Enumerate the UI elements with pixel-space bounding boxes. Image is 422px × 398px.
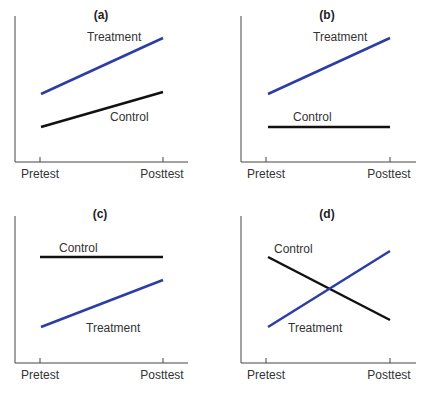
panel-a: (a) Pretest Posttest Treatment Control bbox=[15, 8, 188, 181]
panel-d-label-posttest: Posttest bbox=[367, 368, 411, 382]
panel-b-treatment-line bbox=[268, 38, 390, 94]
panel-b-treatment-label: Treatment bbox=[313, 30, 368, 44]
panel-d-treatment-line bbox=[268, 251, 390, 327]
panel-c-title: (c) bbox=[93, 207, 108, 221]
panel-b-label-pretest: Pretest bbox=[247, 167, 286, 181]
panel-c-axes bbox=[15, 216, 188, 363]
panel-b: (b) Pretest Posttest Treatment Control bbox=[241, 8, 416, 181]
panel-b-title: (b) bbox=[319, 8, 334, 22]
panel-a-treatment-label: Treatment bbox=[87, 30, 142, 44]
panel-d-control-label: Control bbox=[274, 242, 313, 256]
panel-d-treatment-label: Treatment bbox=[288, 321, 343, 335]
panel-c-label-pretest: Pretest bbox=[21, 368, 60, 382]
panel-c-treatment-label: Treatment bbox=[86, 321, 141, 335]
panel-c-label-posttest: Posttest bbox=[140, 368, 184, 382]
panel-c: (c) Pretest Posttest Control Treatment bbox=[15, 207, 188, 382]
panel-c-treatment-line bbox=[41, 280, 163, 327]
panel-a-control-label: Control bbox=[110, 110, 149, 124]
panel-a-title: (a) bbox=[94, 8, 109, 22]
panel-c-control-label: Control bbox=[59, 241, 98, 255]
panel-d: (d) Pretest Posttest Control Treatment bbox=[241, 207, 416, 382]
panel-a-treatment-line bbox=[41, 38, 163, 94]
panel-d-title: (d) bbox=[319, 207, 334, 221]
panel-b-control-label: Control bbox=[293, 110, 332, 124]
four-panel-chart: (a) Pretest Posttest Treatment Control (… bbox=[0, 0, 422, 398]
panel-a-label-pretest: Pretest bbox=[21, 167, 60, 181]
panel-d-label-pretest: Pretest bbox=[247, 368, 286, 382]
panel-b-label-posttest: Posttest bbox=[367, 167, 411, 181]
panel-a-label-posttest: Posttest bbox=[140, 167, 184, 181]
